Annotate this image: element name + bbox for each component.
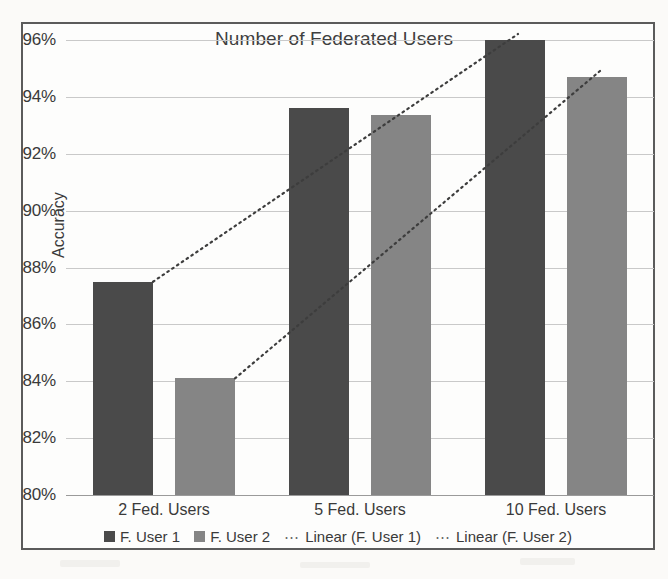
bar-f-user-1-2 bbox=[93, 282, 153, 495]
legend-item-linear-f-user-2-[interactable]: ⋯Linear (F. User 2) bbox=[435, 528, 572, 545]
bar-f-user-1-5 bbox=[289, 108, 349, 495]
x-axis-tick-label: 10 Fed. Users bbox=[506, 501, 606, 519]
chart-legend: F. User 1F. User 2⋯Linear (F. User 1)⋯Li… bbox=[21, 528, 655, 545]
x-axis-tick-label: 5 Fed. Users bbox=[314, 501, 406, 519]
y-axis-tick-label: 88% bbox=[23, 258, 56, 278]
dotted-line-icon: ⋯ bbox=[284, 529, 300, 544]
gridline bbox=[66, 495, 654, 496]
gridline bbox=[66, 211, 654, 212]
dotted-line-icon: ⋯ bbox=[435, 529, 451, 544]
gridline bbox=[66, 40, 654, 41]
legend-label: Linear (F. User 2) bbox=[456, 528, 572, 545]
legend-label: Linear (F. User 1) bbox=[305, 528, 421, 545]
legend-label: F. User 1 bbox=[120, 528, 180, 545]
bar-f-user-2-5 bbox=[371, 115, 431, 495]
x-axis-labels: 2 Fed. Users5 Fed. Users10 Fed. Users bbox=[66, 501, 654, 527]
legend-item-linear-f-user-1-[interactable]: ⋯Linear (F. User 1) bbox=[284, 528, 421, 545]
legend-item-f-user-1[interactable]: F. User 1 bbox=[104, 528, 180, 545]
y-axis-tick-label: 86% bbox=[23, 314, 56, 334]
legend-label: F. User 2 bbox=[210, 528, 270, 545]
gridline bbox=[66, 324, 654, 325]
legend-item-f-user-2[interactable]: F. User 2 bbox=[194, 528, 270, 545]
scan-artifact bbox=[300, 562, 370, 568]
x-axis-tick-label: 2 Fed. Users bbox=[118, 501, 210, 519]
scan-artifact bbox=[520, 558, 575, 565]
y-axis-tick-label: 90% bbox=[23, 201, 56, 221]
y-axis-tick-label: 94% bbox=[23, 87, 56, 107]
y-axis-tick-label: 84% bbox=[23, 371, 56, 391]
bar-f-user-2-2 bbox=[175, 378, 235, 495]
plot-area: 96%94%92%90%88%86%84%82%80% bbox=[66, 40, 654, 495]
gridline bbox=[66, 268, 654, 269]
y-axis-tick-label: 96% bbox=[23, 30, 56, 50]
legend-swatch-icon bbox=[194, 531, 205, 542]
scan-artifact bbox=[60, 560, 120, 567]
bar-f-user-1-10 bbox=[485, 40, 545, 495]
gridline bbox=[66, 438, 654, 439]
legend-swatch-icon bbox=[104, 531, 115, 542]
y-axis-tick-label: 82% bbox=[23, 428, 56, 448]
y-axis-tick-label: 80% bbox=[23, 485, 56, 505]
gridline bbox=[66, 381, 654, 382]
gridline bbox=[66, 97, 654, 98]
y-axis-tick-label: 92% bbox=[23, 144, 56, 164]
bar-f-user-2-10 bbox=[567, 77, 627, 495]
gridline bbox=[66, 154, 654, 155]
